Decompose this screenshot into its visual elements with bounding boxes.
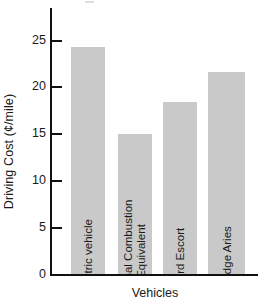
y-tick-label-15: 15: [16, 127, 46, 140]
top-edge-artifact: [85, 1, 94, 3]
y-tick-15: 15: [51, 133, 62, 135]
bar-chart: Driving Cost (¢/mile) 25 20 15 10 5 0 El…: [0, 0, 260, 303]
y-tick-25: 25: [51, 40, 62, 42]
y-tick-5: 5: [51, 227, 62, 229]
y-axis-line: [50, 8, 52, 275]
y-tick-20: 20: [51, 86, 62, 88]
bar-ford-escort[interactable]: Ford Escort: [163, 102, 197, 274]
bar-dodge-aries[interactable]: Dodge Aries: [208, 72, 245, 274]
bar-label-ford-escort: Ford Escort: [174, 228, 187, 274]
y-tick-label-10: 10: [16, 174, 46, 187]
y-tick-label-0: 0: [16, 267, 46, 280]
y-tick-label-5: 5: [16, 220, 46, 233]
y-tick-label-20: 20: [16, 80, 46, 93]
bar-label-electric-vehicle: Electric vehicle: [82, 219, 95, 274]
bar-label-dodge-aries: Dodge Aries: [220, 226, 233, 274]
x-axis-title: Vehicles: [50, 286, 260, 300]
bar-label-internal-combustion-equivalent: Internal Combustion Equivalent: [122, 191, 148, 274]
bar-internal-combustion-equivalent[interactable]: Internal Combustion Equivalent: [118, 134, 152, 274]
bar-electric-vehicle[interactable]: Electric vehicle: [71, 47, 105, 274]
y-tick-10: 10: [51, 180, 62, 182]
y-tick-label-25: 25: [16, 33, 46, 46]
plot-area: 25 20 15 10 5 0 Electric vehicle Interna…: [50, 8, 260, 277]
